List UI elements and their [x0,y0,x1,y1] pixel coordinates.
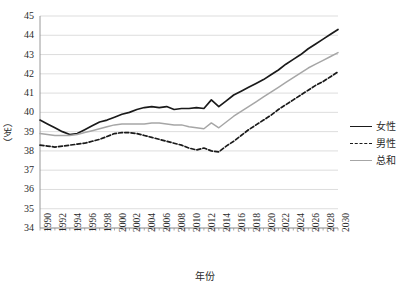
y-tick-label: 34 [8,223,34,233]
x-tick-label: 1998 [104,213,114,232]
x-tick-label: 2020 [268,213,278,232]
series-paths [40,29,338,151]
legend-item-male: 男性 [350,135,396,152]
x-tick-label: 2000 [119,213,129,232]
x-tick-label: 1992 [59,213,69,232]
x-tick-label: 2022 [282,213,292,232]
x-tick-label: 2006 [163,213,173,232]
x-tick-label: 2030 [342,213,352,232]
chart-legend: 女性 男性 总和 [350,118,396,169]
y-tick-label: 41 [8,88,34,98]
y-tick-label: 38 [8,146,34,156]
x-tick-label: 2012 [208,213,218,232]
x-tick-label: 2010 [193,213,203,232]
y-tick-label: 36 [8,184,34,194]
x-tick-label: 2004 [148,213,158,232]
legend-label-male: 男性 [376,139,396,149]
y-tick-label: 44 [8,30,34,40]
y-tick-label: 35 [8,204,34,214]
y-tick-label: 37 [8,165,34,175]
y-tick-label: 45 [8,11,34,21]
series-line-2 [40,53,338,136]
x-tick-label: 2008 [178,213,188,232]
legend-label-female: 女性 [376,122,396,132]
legend-item-total: 总和 [350,152,396,169]
x-tick-label: 2016 [238,213,248,232]
x-tick-label: 1996 [89,213,99,232]
y-tick-label: 42 [8,69,34,79]
x-tick-label: 2018 [253,213,263,232]
legend-swatch-male-icon [350,143,372,144]
x-tick-label: 2026 [312,213,322,232]
x-tick-label: 1994 [74,213,84,232]
legend-label-total: 总和 [376,156,396,166]
y-tick-label: 39 [8,127,34,137]
y-tick-label: 40 [8,107,34,117]
legend-item-female: 女性 [350,118,396,135]
legend-swatch-female-icon [350,126,372,127]
legend-swatch-total-icon [350,160,372,161]
axis-lines [40,16,338,231]
x-tick-label: 2028 [327,213,337,232]
x-tick-label: 1990 [44,213,54,232]
y-tick-label: 43 [8,50,34,60]
series-line-1 [40,72,338,152]
x-tick-label: 2014 [223,213,233,232]
line-chart: （岁） 343536373839404142434445 19901992199… [0,0,410,289]
gridlines [40,16,338,228]
chart-plot-area [0,0,410,289]
x-tick-label: 2024 [297,213,307,232]
x-axis-title: 年份 [0,268,410,283]
x-tick-label: 2002 [133,213,143,232]
series-line-0 [40,29,338,134]
